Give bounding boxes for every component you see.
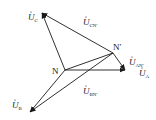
svg-text:UA: UA: [139, 68, 150, 79]
label-UBNprime: UBN′: [83, 85, 98, 96]
label-UANprime: UAN′: [129, 56, 144, 67]
point-label-Nprime: N′: [113, 42, 121, 52]
vector-UBNprime: [30, 53, 113, 112]
svg-text:UB: UB: [12, 100, 23, 111]
svg-text:UBN′: UBN′: [83, 86, 98, 97]
vector-UANprime: [113, 53, 125, 70]
label-UA: UA: [139, 67, 150, 78]
point-label-N: N: [52, 66, 59, 76]
phasor-diagram: N N′ UC UCN′ UAN′ UA UBN′ UB: [0, 0, 156, 120]
label-UCNprime: UCN′: [83, 16, 98, 27]
svg-text:UAN′: UAN′: [129, 57, 144, 68]
vector-UCNprime: [42, 13, 113, 53]
svg-text:UCN′: UCN′: [83, 17, 98, 28]
segment-N-Nprime: [65, 53, 113, 70]
vector-UC: [42, 13, 65, 70]
label-UC: UC: [28, 11, 39, 22]
svg-text:UC: UC: [28, 12, 39, 23]
label-UB: UB: [12, 99, 23, 110]
